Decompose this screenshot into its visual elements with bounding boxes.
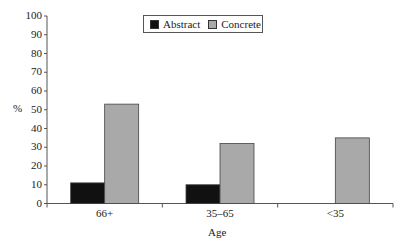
legend: Abstract Concrete bbox=[143, 15, 263, 33]
legend-label-concrete: Concrete bbox=[221, 18, 261, 30]
bar-abstract bbox=[186, 185, 220, 204]
x-tick-label: 35–65 bbox=[190, 207, 250, 219]
bar-concrete bbox=[335, 138, 369, 204]
x-tick-label: 66+ bbox=[75, 207, 135, 219]
legend-label-abstract: Abstract bbox=[163, 18, 200, 30]
x-tick-label: <35 bbox=[305, 207, 365, 219]
bar-concrete bbox=[220, 144, 254, 204]
legend-swatch-concrete bbox=[208, 20, 217, 29]
x-axis-title: Age bbox=[208, 226, 226, 238]
bar-abstract bbox=[71, 183, 105, 204]
legend-swatch-abstract bbox=[150, 20, 159, 29]
bar-concrete bbox=[105, 104, 139, 203]
